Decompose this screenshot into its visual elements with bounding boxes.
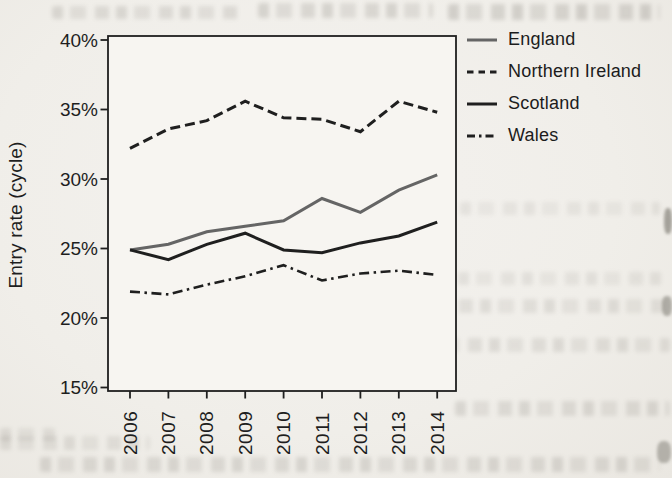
- legend-label: Scotland: [508, 93, 580, 114]
- x-tick-label: 2010: [273, 411, 294, 455]
- x-tick-label: 2012: [350, 411, 371, 455]
- legend-item-wales: Wales: [466, 125, 641, 146]
- y-tick-label: 20%: [60, 308, 98, 329]
- legend-item-northern-ireland: Northern Ireland: [466, 61, 641, 82]
- northern-ireland-line-sample-icon: [466, 68, 498, 76]
- y-tick-label: 40%: [60, 30, 98, 51]
- x-tick-label: 2006: [120, 411, 141, 455]
- y-tick-label: 35%: [60, 99, 98, 120]
- x-tick-label: 2008: [196, 411, 217, 455]
- y-tick-label: 15%: [60, 377, 98, 398]
- scotland-line-sample-icon: [466, 100, 498, 108]
- y-tick-label: 30%: [60, 169, 98, 190]
- legend-label: Northern Ireland: [508, 61, 641, 82]
- legend: England Northern Ireland Scotland Wales: [466, 29, 641, 146]
- x-tick-label: 2009: [235, 411, 256, 455]
- scanned-page: 15%20%25%30%35%40%2006200720082009201020…: [0, 0, 672, 478]
- wales-line-sample-icon: [466, 132, 498, 140]
- y-tick-label: 25%: [60, 238, 98, 259]
- plot-area: [108, 36, 456, 391]
- y-axis-label: Entry rate (cycle): [6, 125, 26, 305]
- legend-item-scotland: Scotland: [466, 93, 641, 114]
- legend-label: Wales: [508, 125, 558, 146]
- x-tick-label: 2007: [158, 411, 179, 455]
- x-tick-label: 2014: [427, 411, 448, 455]
- legend-item-england: England: [466, 29, 641, 50]
- x-tick-label: 2013: [388, 411, 409, 455]
- legend-label: England: [508, 29, 575, 50]
- x-tick-label: 2011: [312, 412, 333, 455]
- england-line-sample-icon: [466, 36, 498, 44]
